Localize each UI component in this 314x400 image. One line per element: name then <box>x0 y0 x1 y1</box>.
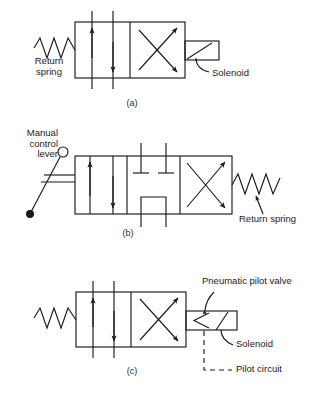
diagram-c-crossed-flow-paths <box>140 298 178 341</box>
diagram-c-solenoid-label: Solenoid <box>236 339 273 350</box>
diagram-b-caption: (b) <box>100 228 156 238</box>
diagram-b-manual-line3: lever <box>37 148 58 159</box>
diagram-a-return-spring-line2: spring <box>36 66 62 77</box>
diagram-a-solenoid-actuator <box>185 41 219 60</box>
diagram-a-return-spring-line1: Return <box>35 55 64 66</box>
diagram-b-return-spring-label: Return spring <box>239 214 296 225</box>
diagram-c-return-spring <box>34 308 76 328</box>
diagram-b-manual-lever-label: Manualcontrollever <box>2 128 58 160</box>
diagram-c-solenoid-leader <box>221 330 233 345</box>
diagram-a-solenoid-label: Solenoid <box>212 68 249 79</box>
diagram-b-manual-line2: control <box>29 138 58 149</box>
diagram-a-parallel-flow-paths <box>92 11 113 89</box>
diagram-b-manual-line1: Manual <box>27 127 58 138</box>
diagram-b-return-spring <box>232 174 280 194</box>
diagram-b-valve-body <box>75 156 232 214</box>
diagram-a-return-spring-label: Returnspring <box>20 56 78 77</box>
valve-symbols-figure: Returnspring Solenoid (a) Manualcontroll… <box>0 0 314 400</box>
diagram-a-caption: (a) <box>104 98 160 108</box>
diagram-a-crossed-flow-paths <box>139 28 177 72</box>
diagram-b-return-spring-leader <box>256 196 263 214</box>
diagram-b-parallel-flow-paths <box>90 156 113 214</box>
diagram-b-crossed-flow-paths <box>187 162 225 208</box>
diagram-b-lever-pivot-dot <box>27 211 34 218</box>
diagram-c-pneumatic-pilot-valve-label: Pneumatic pilot valve <box>202 276 292 287</box>
diagram-c-pilot-circuit-label: Pilot circuit <box>236 364 282 375</box>
diagram-c-caption: (c) <box>104 366 160 376</box>
diagram-c-pilot-valve-leader <box>205 292 214 310</box>
diagram-c-pilot-circuit-line <box>204 331 232 370</box>
diagram-c-pilot-valve-assembly <box>186 311 237 330</box>
